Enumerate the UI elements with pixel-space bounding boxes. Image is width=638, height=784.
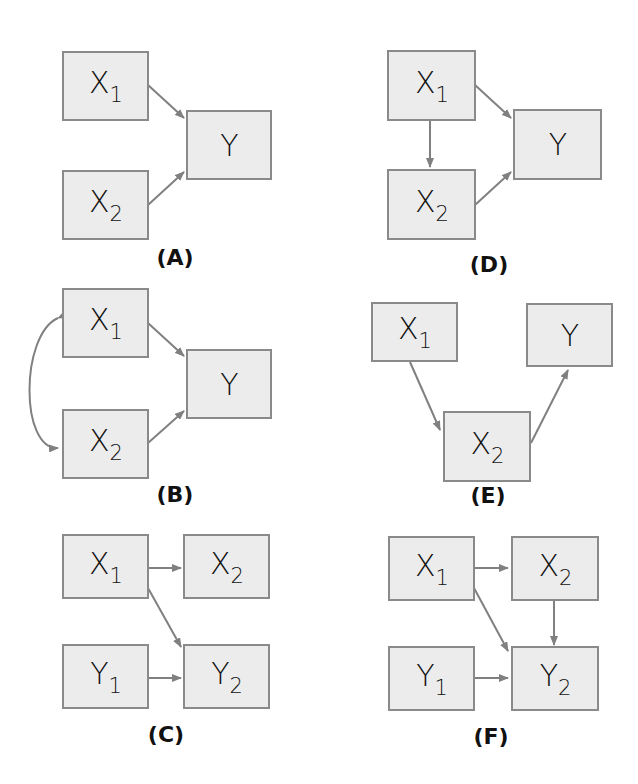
node-label: X	[89, 546, 109, 581]
arrow-b-x1-y	[148, 323, 184, 356]
node-label: X	[89, 302, 109, 337]
node-label: X	[89, 184, 109, 219]
node-a-x1: X1	[62, 51, 149, 121]
node-subscript: 1	[434, 676, 446, 700]
panel-label-a: (A)	[145, 245, 205, 270]
node-label: X	[539, 548, 559, 583]
node-d-x1: X1	[387, 50, 476, 121]
node-subscript: 2	[229, 674, 241, 698]
node-label: Y	[90, 656, 107, 691]
node-f-y2: Y2	[511, 646, 599, 711]
arrow-e-x2-y	[531, 370, 568, 443]
node-label: X	[398, 311, 418, 346]
node-e-x2: X2	[443, 411, 531, 482]
arrow-d-x2-y	[475, 172, 511, 205]
node-subscript: 2	[436, 202, 448, 226]
panel-label-e: (E)	[458, 483, 518, 508]
node-subscript: 2	[559, 566, 571, 590]
node-label: Y	[220, 128, 237, 163]
node-b-x1: X1	[62, 288, 149, 358]
node-subscript: 2	[110, 441, 122, 465]
node-label: X	[210, 546, 230, 581]
node-label: X	[415, 548, 435, 583]
node-label: Y	[211, 656, 228, 691]
arrow-b-x2-y	[148, 411, 184, 443]
node-c-y2: Y2	[183, 644, 270, 709]
node-e-y: Y	[526, 303, 613, 367]
node-label: Y	[416, 658, 433, 693]
panel-label-d: (D)	[459, 252, 519, 277]
node-b-y: Y	[186, 349, 272, 419]
node-label: X	[89, 65, 109, 100]
node-label: X	[415, 65, 435, 100]
node-subscript: 2	[110, 202, 122, 226]
node-subscript: 2	[558, 676, 570, 700]
node-d-x2: X2	[387, 169, 476, 240]
node-label: Y	[220, 367, 237, 402]
node-c-x2: X2	[183, 534, 270, 599]
arrow-d-x1-y	[475, 85, 511, 118]
node-subscript: 2	[231, 564, 243, 588]
node-e-x1: X1	[371, 302, 458, 362]
arrow-b-correlation	[30, 318, 59, 448]
node-label: X	[89, 423, 109, 458]
arrow-f-x1-y2	[474, 588, 508, 651]
node-subscript: 1	[436, 83, 448, 107]
node-f-y1: Y1	[388, 646, 475, 711]
panel-label-b: (B)	[145, 482, 205, 507]
node-subscript: 1	[110, 320, 122, 344]
node-f-x1: X1	[388, 536, 475, 601]
node-subscript: 1	[419, 329, 431, 353]
arrow-c-x1-y2	[148, 588, 181, 647]
node-a-x2: X2	[62, 170, 149, 240]
node-label: X	[415, 184, 435, 219]
node-f-x2: X2	[511, 536, 599, 601]
node-subscript: 2	[491, 444, 503, 468]
node-label: Y	[549, 127, 566, 162]
node-subscript: 1	[436, 566, 448, 590]
node-label: Y	[540, 658, 557, 693]
arrow-a-x2-y	[148, 172, 184, 205]
panel-label-c: (C)	[136, 722, 196, 747]
arrow-e-x1-x2	[410, 362, 440, 430]
node-c-x1: X1	[62, 534, 149, 599]
node-label: Y	[561, 318, 578, 353]
node-label: X	[471, 426, 491, 461]
node-subscript: 1	[108, 674, 120, 698]
panel-label-f: (F)	[461, 724, 521, 749]
node-b-x2: X2	[62, 409, 149, 479]
node-a-y: Y	[186, 110, 272, 180]
node-c-y1: Y1	[62, 644, 149, 709]
node-subscript: 1	[110, 564, 122, 588]
node-d-y: Y	[513, 109, 602, 180]
arrow-a-x1-y	[148, 85, 184, 118]
node-subscript: 1	[110, 83, 122, 107]
